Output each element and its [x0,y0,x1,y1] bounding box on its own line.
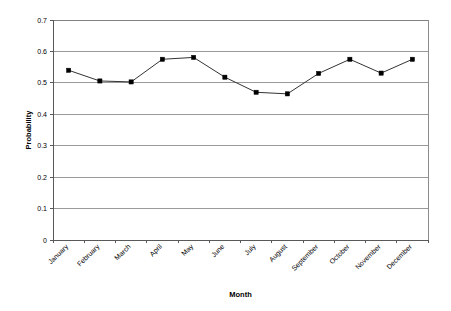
chart-canvas: 00.10.20.30.40.50.60.7JanuaryFebruaryMar… [0,0,451,311]
x-axis-category-label: January [47,242,71,266]
data-point-marker [192,55,196,59]
y-axis-tick-label: 0.2 [37,174,47,181]
x-axis-category-label: December [385,242,413,270]
x-axis-category-label: April [148,242,164,258]
data-point-marker [379,71,383,75]
x-axis-category-label: August [268,243,289,264]
data-point-marker [160,57,164,61]
y-axis-tick-label: 0 [43,237,47,244]
series-markers [67,55,415,96]
x-axis-category-label: June [210,243,226,259]
y-axis-tick-label: 0.1 [37,205,47,212]
x-axis-category-label: March [113,243,132,262]
series-line-probability [69,57,413,93]
gridlines [53,20,428,209]
data-point-marker [254,90,258,94]
y-axis-tick-label: 0.6 [37,48,47,55]
data-point-marker [223,75,227,79]
y-axis: 00.10.20.30.40.50.60.7 [37,17,53,244]
y-axis-tick-label: 0.3 [37,142,47,149]
x-axis-category-label: November [354,242,382,270]
x-axis-category-label: October [328,242,351,265]
probability-by-month-line-chart: 00.10.20.30.40.50.60.7JanuaryFebruaryMar… [0,0,451,311]
y-axis-tick-label: 0.7 [37,17,47,24]
data-point-marker [317,71,321,75]
x-axis-title: Month [229,290,252,299]
x-axis-category-label: February [76,242,102,268]
plot-area-border [53,20,428,240]
y-axis-title: Probability [24,110,33,150]
data-point-marker [410,57,414,61]
data-point-marker [348,57,352,61]
data-point-marker [285,92,289,96]
y-axis-tick-label: 0.5 [37,79,47,86]
x-axis-category-labels: JanuaryFebruaryMarchAprilMayJuneJulyAugu… [47,242,414,272]
x-axis-category-label: May [180,242,195,257]
y-axis-tick-label: 0.4 [37,111,47,118]
data-point-marker [98,79,102,83]
data-point-marker [67,68,71,72]
data-point-marker [129,80,133,84]
x-axis-category-label: July [243,242,258,257]
x-axis [53,240,428,243]
x-axis-category-label: September [290,242,320,272]
